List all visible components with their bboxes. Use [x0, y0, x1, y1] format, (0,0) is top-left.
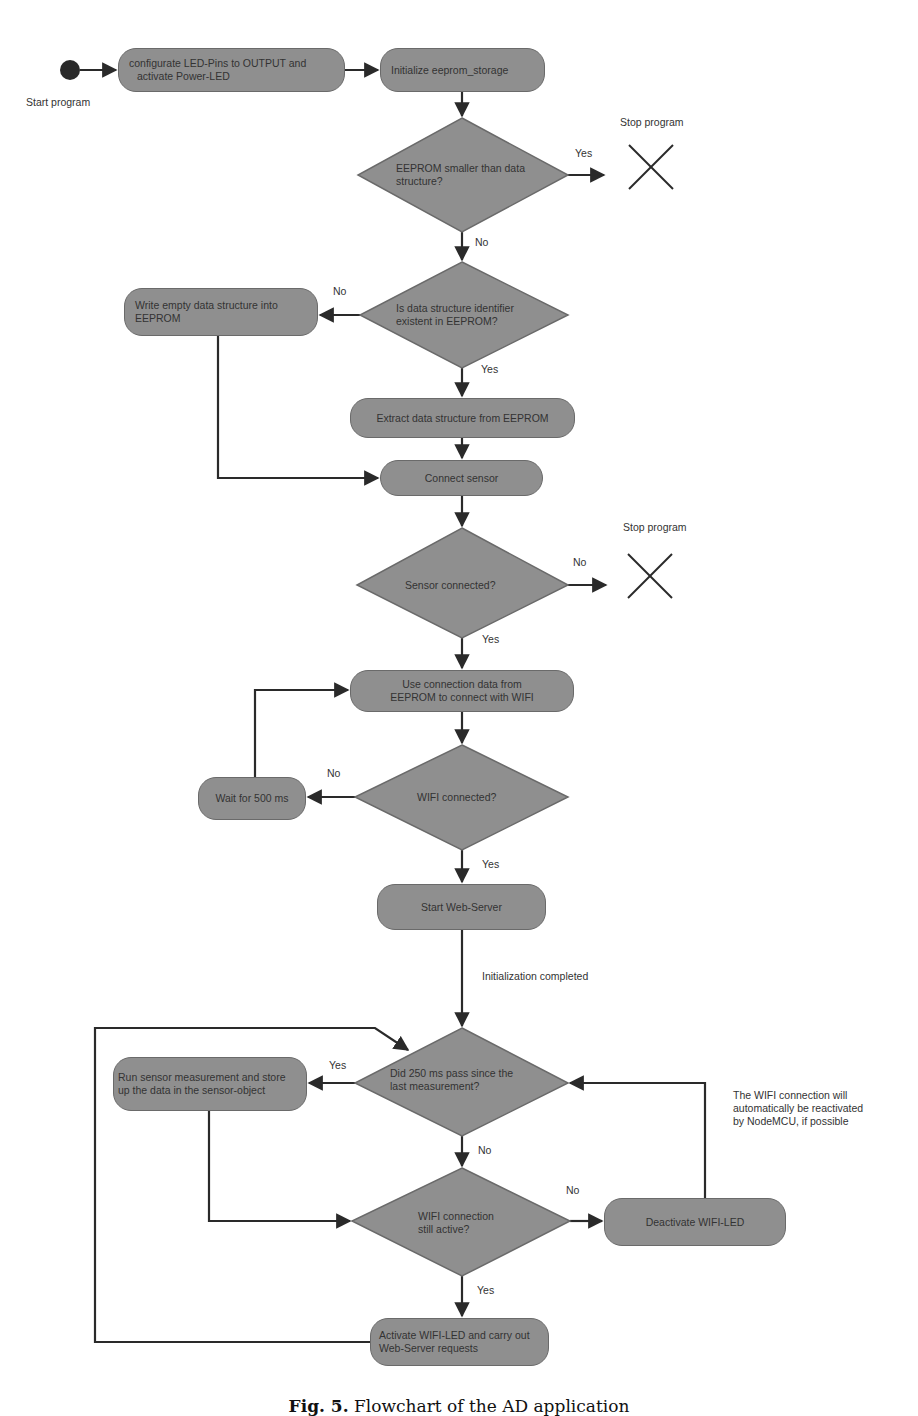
- edge-wait-to-use: [255, 690, 348, 777]
- edge-label-d4-no: No: [327, 767, 340, 779]
- edge-label-d1-yes: Yes: [575, 147, 592, 159]
- node-write-empty: Write empty data structure into EEPROM: [124, 288, 318, 336]
- node-run-sensor: Run sensor measurement and store up the …: [113, 1057, 307, 1111]
- edge-label-d3-yes: Yes: [482, 633, 499, 645]
- node-write-empty-line1: Write empty data structure into: [135, 299, 278, 312]
- node-use-connection-line2: EEPROM to connect with WIFI: [390, 691, 534, 704]
- decision-wifi-active-text: WIFI connection still active?: [418, 1210, 494, 1236]
- edge-label-d2-no: No: [333, 285, 346, 297]
- node-start-webserver: Start Web-Server: [377, 884, 546, 930]
- node-configure-leds: configurate LED-Pins to OUTPUT and activ…: [118, 48, 345, 92]
- node-configure-leds-line2: activate Power-LED: [129, 70, 306, 83]
- node-extract: Extract data structure from EEPROM: [350, 398, 575, 438]
- edge-label-d4-yes: Yes: [482, 858, 499, 870]
- edge-label-d6-no: No: [566, 1184, 579, 1196]
- edge-deactivate-to-d5: [570, 1083, 705, 1198]
- edge-label-d1-no: No: [475, 236, 488, 248]
- caption-text: Flowchart of the AD application: [354, 1396, 629, 1416]
- decision-eeprom-size-text: EEPROM smaller than data structure?: [396, 162, 525, 188]
- figure-caption: Fig. 5. Flowchart of the AD application: [0, 1396, 918, 1416]
- node-init-eeprom: Initialize eeprom_storage: [380, 48, 545, 92]
- decision-identifier-text: Is data structure identifier existent in…: [396, 302, 514, 328]
- node-configure-leds-line1: configurate LED-Pins to OUTPUT and: [129, 57, 306, 70]
- node-connect-sensor: Connect sensor: [380, 460, 543, 496]
- start-node-icon: [60, 60, 80, 80]
- node-use-connection-line1: Use connection data from: [390, 678, 534, 691]
- node-activate-led: Activate WIFI-LED and carry out Web-Serv…: [370, 1318, 549, 1366]
- note-line3: by NodeMCU, if possible: [733, 1115, 863, 1128]
- decision-eeprom-size-line1: EEPROM smaller than data: [396, 162, 525, 175]
- edge-label-d5-yes: Yes: [329, 1059, 346, 1071]
- edge-label-d3-no: No: [573, 556, 586, 568]
- decision-identifier-line1: Is data structure identifier: [396, 302, 514, 315]
- node-activate-led-line1: Activate WIFI-LED and carry out: [379, 1329, 530, 1342]
- node-write-empty-line2: EEPROM: [135, 312, 278, 325]
- node-run-sensor-line2: up the data in the sensor-object: [118, 1084, 286, 1097]
- decision-wifi-line1: WIFI connected?: [417, 791, 496, 804]
- node-deactivate-led: Deactivate WIFI-LED: [604, 1198, 786, 1246]
- decision-identifier-line2: existent in EEPROM?: [396, 315, 514, 328]
- decision-wifi-active-line2: still active?: [418, 1223, 494, 1236]
- node-extract-label: Extract data structure from EEPROM: [376, 412, 548, 425]
- stop-cross-icon-1: [629, 145, 673, 189]
- edge-label-d2-yes: Yes: [481, 363, 498, 375]
- note-line2: automatically be reactivated: [733, 1102, 863, 1115]
- stop-cross-icon-2: [628, 554, 672, 598]
- edge-label-d5-no: No: [478, 1144, 491, 1156]
- node-wait-label: Wait for 500 ms: [215, 792, 288, 805]
- decision-eeprom-size-line2: structure?: [396, 175, 525, 188]
- edge-label-init-completed: Initialization completed: [482, 970, 588, 982]
- decision-sensor-text: Sensor connected?: [405, 579, 495, 592]
- stop-label-1: Stop program: [620, 116, 684, 128]
- node-deactivate-led-label: Deactivate WIFI-LED: [646, 1216, 745, 1229]
- node-wait: Wait for 500 ms: [198, 777, 306, 820]
- edge-run-to-d6: [209, 1111, 350, 1221]
- node-use-connection: Use connection data from EEPROM to conne…: [350, 670, 574, 712]
- caption-prefix: Fig. 5.: [289, 1396, 349, 1416]
- start-label: Start program: [26, 96, 90, 108]
- stop-label-2: Stop program: [623, 521, 687, 533]
- note-line1: The WIFI connection will: [733, 1089, 863, 1102]
- node-start-webserver-label: Start Web-Server: [421, 901, 502, 914]
- decision-250-text: Did 250 ms pass since the last measureme…: [390, 1067, 513, 1093]
- node-init-eeprom-label: Initialize eeprom_storage: [391, 64, 508, 77]
- node-activate-led-line2: Web-Server requests: [379, 1342, 530, 1355]
- decision-wifi-text: WIFI connected?: [417, 791, 496, 804]
- decision-250-line1: Did 250 ms pass since the: [390, 1067, 513, 1080]
- node-run-sensor-line1: Run sensor measurement and store: [118, 1071, 286, 1084]
- decision-wifi-active-line1: WIFI connection: [418, 1210, 494, 1223]
- edge-label-d6-yes: Yes: [477, 1284, 494, 1296]
- decision-250-line2: last measurement?: [390, 1080, 513, 1093]
- node-connect-sensor-label: Connect sensor: [425, 472, 499, 485]
- decision-sensor-line1: Sensor connected?: [405, 579, 495, 592]
- reactivation-note: The WIFI connection will automatically b…: [733, 1089, 863, 1128]
